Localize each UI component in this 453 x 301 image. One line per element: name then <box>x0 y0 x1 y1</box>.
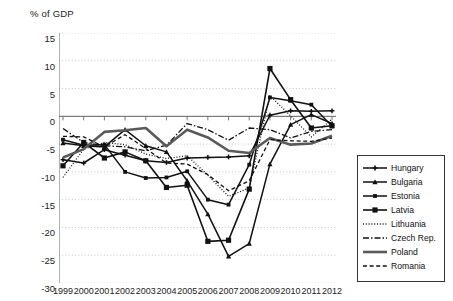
y-tick-15: 15 <box>3 33 55 44</box>
legend-label: Estonia <box>388 191 420 201</box>
y-tick-5: 5 <box>3 89 55 100</box>
legend-item-romania[interactable]: Romania <box>362 259 440 273</box>
legend-label: Poland <box>388 247 418 257</box>
axis-title: % of GDP <box>30 8 74 19</box>
legend-label: Romania <box>388 261 425 271</box>
line-thick-double-icon <box>362 246 388 258</box>
plot-area <box>59 33 336 283</box>
legend-label: Hungary <box>388 163 423 173</box>
y-tick-10: 10 <box>3 61 55 72</box>
y-tick-neg20: -20 <box>3 227 55 238</box>
legend-item-lithuania[interactable]: Lithuania <box>362 217 440 231</box>
line-marker-cross-icon <box>362 162 388 174</box>
x-tick-2012: 2012 <box>317 286 347 296</box>
legend-item-bulgaria[interactable]: Bulgaria <box>362 175 440 189</box>
legend-item-latvia[interactable]: Latvia <box>362 203 440 217</box>
line-marker-triangle-icon <box>362 176 388 188</box>
y-tick-neg5: -5 <box>3 144 55 155</box>
legend-label: Bulgaria <box>388 177 423 187</box>
legend-item-poland[interactable]: Poland <box>362 245 440 259</box>
legend-item-estonia[interactable]: Estonia <box>362 189 440 203</box>
line-dashed-icon <box>362 260 388 272</box>
y-axis-tick-labels: 151050-5-10-15-20-25-30 <box>0 26 55 290</box>
chart-legend: HungaryBulgariaEstoniaLatviaLithuaniaCze… <box>357 155 445 282</box>
line-marker-square-icon <box>362 204 388 216</box>
legend-label: Lithuania <box>388 219 426 229</box>
y-tick-neg15: -15 <box>3 200 55 211</box>
y-tick-neg10: -10 <box>3 172 55 183</box>
legend-label: Latvia <box>388 205 414 215</box>
legend-label: Czech Rep. <box>388 233 436 243</box>
chart-container: % of GDP 151050-5-10-15-20-25-30 1999200… <box>0 0 453 301</box>
line-dash-dot-icon <box>362 232 388 244</box>
line-marker-diamond-icon <box>362 190 388 202</box>
line-dotted-icon <box>362 218 388 230</box>
series-poland <box>63 128 332 157</box>
line-chart-svg <box>59 33 336 283</box>
y-tick-neg25: -25 <box>3 255 55 266</box>
x-axis-tick-labels: 1999200020012002200320042005200620072008… <box>0 284 453 301</box>
y-tick-0: 0 <box>3 116 55 127</box>
legend-item-hungary[interactable]: Hungary <box>362 161 440 175</box>
legend-item-czech-rep[interactable]: Czech Rep. <box>362 231 440 245</box>
series-latvia <box>60 66 334 244</box>
